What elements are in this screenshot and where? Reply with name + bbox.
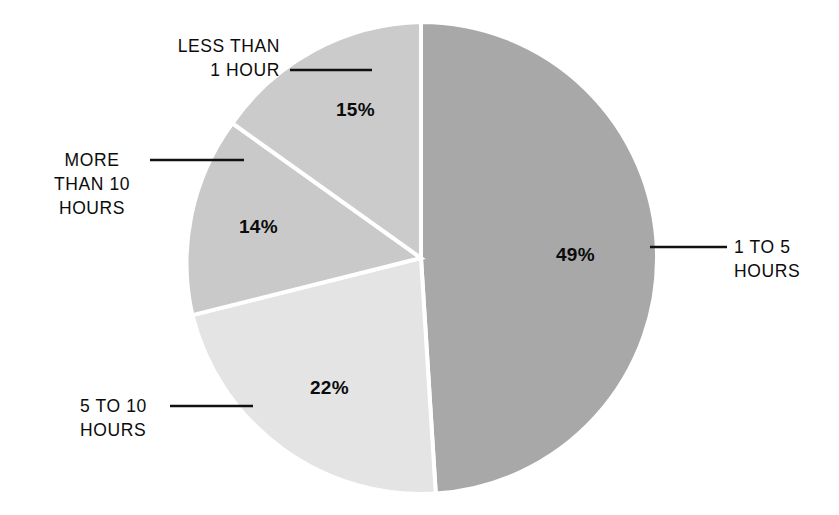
pie-slice-1-to-5-hours[interactable]: [421, 22, 657, 494]
slice-value-more-than-10-hours: 14%: [239, 216, 278, 238]
slice-value-less-than-1-hour: 15%: [336, 99, 375, 121]
pie-chart-figure: LESS THAN 1 HOUR MORE THAN 10 HOURS 1 TO…: [0, 0, 839, 515]
callout-label-1-to-5-hours: 1 TO 5 HOURS: [734, 235, 838, 283]
callout-label-more-than-10-hours: MORE THAN 10 HOURS: [38, 148, 146, 220]
slice-value-1-to-5-hours: 49%: [556, 244, 595, 266]
callout-label-5-to-10-hours: 5 TO 10 HOURS: [80, 394, 210, 442]
callout-label-less-than-1-hour: LESS THAN 1 HOUR: [40, 34, 280, 82]
slice-value-5-to-10-hours: 22%: [310, 377, 349, 399]
